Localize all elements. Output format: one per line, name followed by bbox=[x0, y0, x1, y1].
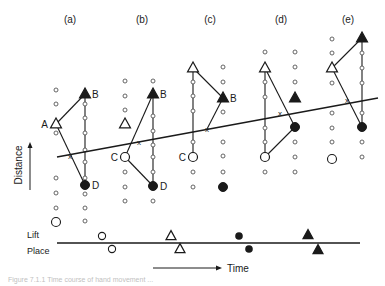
position-dot bbox=[263, 95, 267, 99]
position-dot bbox=[83, 219, 87, 223]
position-dot bbox=[293, 155, 297, 159]
point-label-A: A bbox=[41, 119, 48, 130]
open-circle-marker bbox=[121, 153, 130, 162]
point-label-D: D bbox=[160, 181, 167, 192]
position-dot bbox=[221, 170, 225, 174]
point-label-B: B bbox=[230, 93, 237, 104]
position-dot bbox=[151, 199, 155, 203]
figure-caption-fragment: Figure 7.1.1 Time course of hand movemen… bbox=[8, 276, 153, 283]
position-dot bbox=[151, 143, 155, 147]
position-dot bbox=[263, 80, 267, 84]
open-triangle-marker bbox=[188, 62, 199, 72]
panel-a: (a)ABDx bbox=[41, 14, 99, 227]
point-label-B: B bbox=[92, 89, 99, 100]
open-triangle-marker bbox=[120, 118, 131, 128]
panel-label-e: (e) bbox=[342, 14, 354, 25]
position-dot bbox=[330, 37, 334, 41]
arrow-up-icon bbox=[28, 142, 33, 148]
position-dot bbox=[263, 126, 267, 130]
position-dot bbox=[191, 140, 195, 144]
point-label-C: C bbox=[111, 152, 118, 163]
filled-triangle-marker bbox=[80, 88, 91, 98]
place-marker-filled-triangle bbox=[313, 245, 323, 254]
position-dot bbox=[151, 114, 155, 118]
position-dot bbox=[54, 206, 58, 210]
position-dot bbox=[221, 140, 225, 144]
time-axis-label: Time bbox=[227, 263, 249, 274]
filled-triangle-marker bbox=[148, 88, 159, 98]
position-dot bbox=[330, 140, 334, 144]
distance-axis-label: Distance bbox=[13, 145, 24, 184]
place-marker-filled-circle bbox=[245, 245, 253, 253]
filled-circle-marker bbox=[81, 181, 90, 190]
position-dot bbox=[293, 140, 297, 144]
position-dot bbox=[151, 155, 155, 159]
position-dot bbox=[221, 65, 225, 69]
filled-triangle-marker bbox=[357, 32, 368, 42]
position-dot bbox=[83, 131, 87, 135]
position-dot bbox=[191, 109, 195, 113]
point-label-B: B bbox=[160, 89, 167, 100]
position-dot bbox=[360, 140, 364, 144]
position-dot bbox=[221, 154, 225, 158]
panel-label-d: (d) bbox=[275, 14, 287, 25]
position-dot bbox=[83, 102, 87, 106]
position-dot bbox=[54, 102, 58, 106]
position-dot bbox=[191, 185, 195, 189]
position-dot bbox=[191, 94, 195, 98]
position-dot bbox=[330, 81, 334, 85]
position-dot bbox=[293, 80, 297, 84]
position-dot bbox=[360, 155, 364, 159]
distance-axis: Distance bbox=[13, 142, 33, 190]
position-dot bbox=[151, 129, 155, 133]
filled-circle-marker bbox=[291, 123, 300, 132]
open-circle-marker bbox=[328, 155, 337, 164]
position-dot bbox=[360, 51, 364, 55]
position-dot bbox=[360, 111, 364, 115]
position-dot bbox=[293, 65, 297, 69]
panel-label-a: (a) bbox=[64, 14, 76, 25]
position-dot bbox=[83, 192, 87, 196]
lift-label: Lift bbox=[27, 230, 40, 240]
lift-place-timeline: LiftPlaceTime bbox=[27, 230, 360, 274]
filled-circle-marker bbox=[358, 123, 367, 132]
connector-line bbox=[207, 98, 223, 129]
panel-b: (b)BCDx bbox=[111, 14, 167, 203]
position-dot bbox=[221, 110, 225, 114]
position-dot bbox=[360, 66, 364, 70]
hand-transport-diagram: (a)ABDx(b)BCDx(c)BCx(d)x(e)x Distance Li… bbox=[0, 0, 385, 286]
position-dot bbox=[263, 170, 267, 174]
panel-d: (d)x bbox=[260, 14, 301, 174]
position-dot bbox=[293, 170, 297, 174]
position-dot bbox=[123, 79, 127, 83]
filled-triangle-marker bbox=[290, 92, 301, 102]
position-dot bbox=[54, 131, 58, 135]
position-dot bbox=[123, 94, 127, 98]
position-dot bbox=[360, 81, 364, 85]
position-dot bbox=[123, 185, 127, 189]
position-dot bbox=[83, 176, 87, 180]
position-dot bbox=[191, 80, 195, 84]
position-dot bbox=[221, 80, 225, 84]
open-triangle-marker bbox=[260, 62, 271, 72]
position-dot bbox=[263, 50, 267, 54]
position-dot bbox=[293, 50, 297, 54]
open-circle-marker bbox=[52, 218, 61, 227]
arrow-right-icon bbox=[216, 266, 222, 271]
open-circle-marker bbox=[261, 153, 270, 162]
position-dot bbox=[83, 116, 87, 120]
position-dot bbox=[191, 170, 195, 174]
place-marker-open-triangle bbox=[175, 244, 185, 253]
crossing-mark: x bbox=[68, 152, 72, 161]
panel-c: (c)BCx bbox=[179, 14, 237, 192]
panel-e: (e)x bbox=[327, 14, 368, 164]
position-dot bbox=[123, 199, 127, 203]
position-dot bbox=[330, 51, 334, 55]
lift-marker-open-triangle bbox=[166, 231, 176, 240]
position-dot bbox=[123, 170, 127, 174]
position-dot bbox=[83, 160, 87, 164]
connector-line bbox=[125, 157, 153, 186]
panels: (a)ABDx(b)BCDx(c)BCx(d)x(e)x bbox=[41, 14, 367, 227]
position-dot bbox=[151, 170, 155, 174]
connector-line bbox=[265, 127, 295, 157]
